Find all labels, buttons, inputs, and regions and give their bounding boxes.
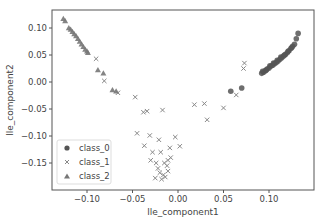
y-tick-label: −0.05 bbox=[21, 104, 47, 114]
x-tick-label: −0.10 bbox=[74, 194, 100, 204]
scatter-chart: −0.10−0.050.000.050.10 0.100.050.00−0.05… bbox=[0, 0, 322, 221]
point-class_1 bbox=[149, 158, 153, 162]
point-class_1 bbox=[157, 138, 161, 142]
y-tick-label: −0.10 bbox=[21, 131, 47, 141]
x-axis-ticks: −0.10−0.050.000.050.10 bbox=[74, 190, 279, 204]
point-class_1 bbox=[202, 101, 206, 105]
point-class_1 bbox=[166, 169, 170, 173]
point-class_0 bbox=[263, 67, 269, 73]
point-class_1 bbox=[135, 131, 139, 135]
point-class_1 bbox=[242, 61, 246, 65]
point-class_0 bbox=[294, 36, 300, 42]
y-tick-label: −0.15 bbox=[21, 158, 47, 168]
legend-label-class-2: class_2 bbox=[79, 171, 110, 181]
point-class_0 bbox=[295, 31, 301, 37]
legend-label-class-0: class_0 bbox=[79, 143, 110, 153]
point-class_1 bbox=[192, 102, 196, 106]
point-class_1 bbox=[168, 146, 172, 150]
point-class_0 bbox=[228, 88, 234, 94]
legend: class_0 class_1 class_2 bbox=[57, 140, 111, 184]
point-class_1 bbox=[142, 144, 146, 148]
x-tick-label: 0.00 bbox=[169, 194, 188, 204]
x-tick-label: 0.10 bbox=[260, 194, 279, 204]
point-class_2 bbox=[95, 67, 101, 72]
point-class_2 bbox=[100, 70, 106, 75]
point-class_0 bbox=[289, 45, 295, 51]
point-class_1 bbox=[159, 150, 163, 154]
x-tick-label: 0.05 bbox=[214, 194, 233, 204]
point-class_1 bbox=[173, 135, 177, 139]
y-tick-label: 0.00 bbox=[28, 77, 47, 87]
point-class_1 bbox=[169, 155, 173, 159]
circle-marker-icon bbox=[64, 145, 69, 150]
x-tick-label: −0.05 bbox=[119, 194, 145, 204]
point-class_1 bbox=[148, 133, 152, 137]
point-class_1 bbox=[150, 150, 154, 154]
point-class_0 bbox=[239, 85, 245, 91]
point-class_1 bbox=[178, 144, 182, 148]
point-class_1 bbox=[102, 79, 106, 83]
y-axis-ticks: 0.100.050.00−0.05−0.10−0.15 bbox=[21, 23, 52, 168]
point-class_1 bbox=[221, 106, 225, 110]
point-class_1 bbox=[156, 166, 160, 170]
legend-label-class-1: class_1 bbox=[79, 157, 110, 167]
point-class_1 bbox=[154, 161, 158, 165]
point-class_1 bbox=[133, 95, 137, 99]
point-class_1 bbox=[94, 57, 98, 61]
point-class_1 bbox=[145, 109, 149, 113]
point-class_1 bbox=[162, 161, 166, 165]
point-class_1 bbox=[241, 66, 245, 70]
x-axis-label: lle_component1 bbox=[147, 207, 219, 217]
point-class_1 bbox=[205, 118, 209, 122]
point-class_1 bbox=[234, 93, 238, 97]
point-class_1 bbox=[160, 108, 164, 112]
y-tick-label: 0.10 bbox=[28, 23, 47, 33]
point-class_1 bbox=[153, 176, 157, 180]
point-class_1 bbox=[141, 110, 145, 114]
y-axis-label: lle_component2 bbox=[5, 64, 15, 136]
y-tick-label: 0.05 bbox=[28, 50, 47, 60]
